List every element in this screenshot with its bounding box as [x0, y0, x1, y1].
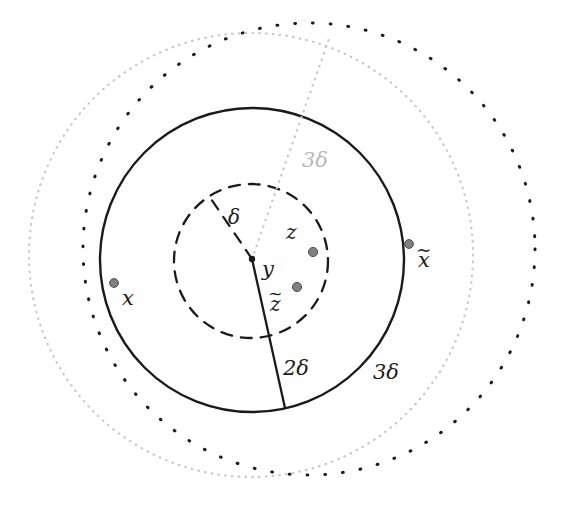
label-three-delta-inner: 3δ [302, 150, 328, 171]
circle-three-delta-ball-y [29, 33, 473, 477]
point-y-center [249, 256, 255, 262]
point-x-tilde [405, 240, 414, 249]
diagram-canvas [0, 0, 561, 509]
radius-line-two-delta [252, 259, 285, 408]
label-z: z [286, 222, 297, 242]
tilde-accent-x: ~ [416, 241, 431, 259]
label-delta: δ [228, 207, 240, 227]
label-three-delta-outer: 3δ [373, 362, 399, 383]
point-z-tilde [292, 282, 301, 291]
point-z [308, 247, 317, 256]
point-x [110, 279, 119, 288]
label-y: y [262, 259, 274, 280]
label-two-delta: 2δ [283, 358, 309, 379]
label-x-tilde: ~x [418, 250, 430, 271]
label-x: x [122, 288, 134, 309]
figure-root: x ~x y z ~z δ 2δ 3δ 3δ [0, 0, 561, 509]
tilde-accent-z: ~ [268, 285, 282, 302]
label-z-tilde: ~z [270, 294, 281, 314]
